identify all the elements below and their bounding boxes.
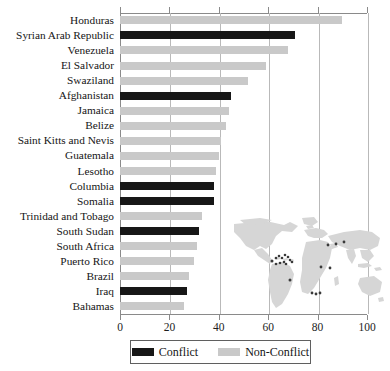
category-label: Belize [85, 118, 114, 133]
bar-row: Belize [0, 118, 390, 133]
bar-non-conflict [120, 272, 189, 280]
bar-conflict [120, 197, 214, 205]
bar-non-conflict [120, 257, 194, 265]
category-label: South Africa [57, 239, 114, 254]
x-axis-bottom-rule [120, 314, 367, 315]
tick-bottom-80 [318, 315, 319, 320]
bar-row: Honduras [0, 13, 390, 28]
bar-row: Saint Kitts and Nevis [0, 133, 390, 148]
bar-row: Jamaica [0, 103, 390, 118]
category-label: Columbia [69, 179, 114, 194]
bar-row: Swaziland [0, 73, 390, 88]
bar-non-conflict [120, 242, 197, 250]
category-label: Lesotho [78, 164, 114, 179]
category-label: Guatemala [65, 148, 114, 163]
bar-non-conflict [120, 46, 288, 54]
x-tick-label: 60 [262, 321, 274, 333]
category-label: Honduras [70, 13, 114, 28]
x-tick-label: 80 [312, 321, 324, 333]
category-label: Syrian Arab Republic [16, 28, 114, 43]
bar-non-conflict [120, 152, 219, 160]
bar-row: Lesotho [0, 164, 390, 179]
bar-non-conflict [120, 62, 266, 70]
category-label: Somalia [77, 194, 114, 209]
tick-bottom-0 [120, 315, 121, 320]
bar-non-conflict [120, 302, 184, 310]
bar-conflict [120, 287, 187, 295]
legend: Conflict Non-Conflict [130, 340, 311, 364]
bar-non-conflict [120, 107, 229, 115]
bar-non-conflict [120, 137, 221, 145]
map-landmasses [234, 217, 384, 308]
tick-bottom-20 [169, 315, 170, 320]
bar-non-conflict [120, 212, 202, 220]
homicide-rate-bar-chart: 020406080100 HondurasSyrian Arab Republi… [0, 0, 390, 371]
bar-conflict [120, 92, 231, 100]
legend-swatch-non-conflict [218, 348, 240, 356]
legend-label-non-conflict: Non-Conflict [245, 345, 309, 360]
legend-swatch-conflict [132, 348, 154, 356]
category-label: Puerto Rico [60, 254, 114, 269]
bar-row: Guatemala [0, 148, 390, 163]
x-tick-label: 20 [164, 321, 176, 333]
bar-row: Syrian Arab Republic [0, 28, 390, 43]
bar-conflict [120, 227, 199, 235]
bar-non-conflict [120, 122, 226, 130]
category-label: El Salvador [61, 58, 114, 73]
tick-bottom-100 [367, 315, 368, 320]
category-label: Saint Kitts and Nevis [18, 133, 114, 148]
bar-row: Somalia [0, 194, 390, 209]
bar-non-conflict [120, 77, 248, 85]
bar-non-conflict [120, 167, 216, 175]
category-label: Trinidad and Tobago [20, 209, 114, 224]
legend-entry-conflict: Conflict [132, 345, 198, 360]
tick-bottom-60 [268, 315, 269, 320]
legend-entry-non-conflict: Non-Conflict [218, 345, 309, 360]
bar-row: Venezuela [0, 43, 390, 58]
x-tick-label: 40 [213, 321, 225, 333]
category-label: Afghanistan [59, 88, 114, 103]
tick-bottom-40 [219, 315, 220, 320]
category-label: South Sudan [57, 224, 114, 239]
bar-conflict [120, 182, 214, 190]
bar-non-conflict [120, 16, 342, 24]
category-label: Bahamas [73, 299, 114, 314]
bar-row: Afghanistan [0, 88, 390, 103]
bar-row: Columbia [0, 179, 390, 194]
category-label: Iraq [96, 284, 114, 299]
bar-row: El Salvador [0, 58, 390, 73]
world-map-inset [232, 216, 384, 314]
bar-conflict [120, 31, 295, 39]
world-map-svg [232, 216, 384, 314]
legend-label-conflict: Conflict [159, 345, 198, 360]
category-label: Brazil [86, 269, 114, 284]
x-tick-label: 100 [358, 321, 375, 333]
category-label: Swaziland [67, 73, 114, 88]
category-label: Jamaica [78, 103, 114, 118]
category-label: Venezuela [68, 43, 114, 58]
x-tick-label: 0 [117, 321, 123, 333]
